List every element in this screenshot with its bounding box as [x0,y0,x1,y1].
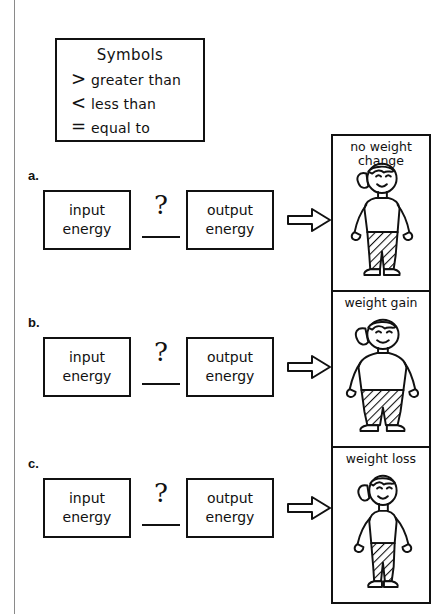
legend-entry-label: less than [91,96,156,112]
legend-title: Symbols [57,46,203,64]
panel-caption: weight loss [333,452,429,466]
row-label-a: a. [28,168,39,183]
input-energy-box: input energy [43,478,131,538]
question-mark-icon: ? [136,480,186,506]
input-energy-label-line2: energy [63,367,112,386]
legend-entry-equal-to: = equal to [71,118,197,142]
answer-blank-line[interactable] [142,524,180,526]
output-energy-label-line1: output [207,348,253,367]
comparison-answer-slot[interactable]: ? [136,190,186,250]
equals-symbol: = [71,118,91,136]
panel-caption: weight gain [333,296,429,310]
question-mark-icon: ? [136,339,186,365]
right-arrow-icon [286,206,332,234]
panel-caption-line2: change [333,154,429,168]
output-energy-label-line2: energy [206,367,255,386]
input-energy-label-line1: input [69,348,105,367]
input-energy-label-line2: energy [63,220,112,239]
body-figure-thin [333,466,429,600]
comparison-answer-slot[interactable]: ? [136,337,186,397]
worksheet-page: Symbols > greater than < less than = equ… [0,0,442,614]
outcome-panel-weight-loss: weight loss [331,446,431,604]
body-figure-heavy [333,310,429,444]
input-energy-label-line2: energy [63,508,112,527]
legend-entry-greater-than: > greater than [71,70,197,94]
right-arrow-icon [286,494,332,522]
body-figure-average [333,154,429,288]
input-energy-label-line1: input [69,489,105,508]
input-energy-label-line1: input [69,201,105,220]
legend-entry-less-than: < less than [71,94,197,118]
less-than-symbol: < [71,94,91,112]
legend-entry-label: equal to [91,120,150,136]
legend-entry-label: greater than [91,72,181,88]
outcome-panel-no-weight-change: no weight change [331,134,431,292]
row-label-b: b. [28,315,40,330]
question-mark-icon: ? [136,192,186,218]
outcome-panel-column: no weight change [331,134,431,602]
output-energy-label-line1: output [207,489,253,508]
legend-entry-list: > greater than < less than = equal to [71,70,197,142]
output-energy-box: output energy [186,478,274,538]
input-energy-box: input energy [43,190,131,250]
row-label-c: c. [28,456,39,471]
output-energy-label-line2: energy [206,508,255,527]
symbols-legend-box: Symbols > greater than < less than = equ… [55,38,205,142]
outcome-panel-weight-gain: weight gain [331,290,431,448]
panel-caption-line1: weight gain [333,296,429,310]
panel-caption-line1: no weight [333,140,429,154]
greater-than-symbol: > [71,70,91,88]
output-energy-box: output energy [186,190,274,250]
answer-blank-line[interactable] [142,383,180,385]
panel-caption-line1: weight loss [333,452,429,466]
output-energy-label-line1: output [207,201,253,220]
comparison-answer-slot[interactable]: ? [136,478,186,538]
panel-caption: no weight change [333,140,429,169]
output-energy-box: output energy [186,337,274,397]
answer-blank-line[interactable] [142,236,180,238]
output-energy-label-line2: energy [206,220,255,239]
right-arrow-icon [286,353,332,381]
page-margin-rule [14,0,15,614]
input-energy-box: input energy [43,337,131,397]
